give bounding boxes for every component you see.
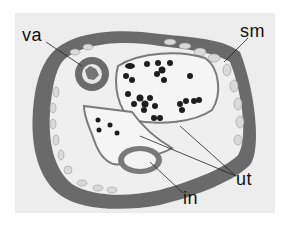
- label-in: in: [183, 189, 198, 207]
- label-ut: ut: [236, 170, 252, 188]
- label-sm: sm: [240, 22, 265, 40]
- label-va: va: [22, 26, 42, 44]
